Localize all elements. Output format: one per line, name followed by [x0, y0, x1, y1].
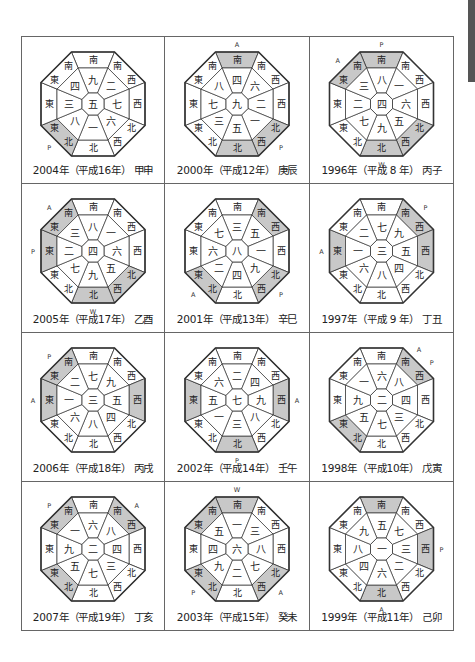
direction-label: 西: [421, 99, 430, 109]
direction-label: 北: [64, 582, 73, 592]
chart-cell: 南九南西二西七北西六北一東北八東三南東四五P2004年（平成16年） 甲申: [22, 37, 165, 184]
star-number: 二: [214, 263, 224, 274]
direction-label: 東: [194, 269, 203, 280]
marker-a: A: [417, 346, 422, 354]
direction-label: 東: [50, 418, 59, 429]
chart-caption: 2004年（平成16年） 甲申: [22, 162, 164, 177]
direction-label: 南: [353, 505, 362, 516]
direction-label: 北: [415, 270, 424, 280]
star-number: 八: [214, 81, 224, 92]
direction-label: 西: [133, 395, 142, 405]
direction-label: 西: [271, 75, 280, 85]
star-number: 四: [250, 377, 260, 388]
direction-label: 北: [64, 137, 73, 147]
direction-label: 西: [277, 99, 286, 109]
star-number: 二: [70, 377, 80, 388]
direction-label: 東: [339, 221, 348, 232]
direction-label: 南: [353, 356, 362, 367]
direction-label: 東: [339, 567, 348, 578]
direction-label: 東: [333, 98, 342, 109]
direction-label: 南: [257, 356, 266, 367]
center-star-number: 四: [377, 99, 387, 110]
marker-p: P: [279, 291, 283, 299]
direction-label: 西: [257, 582, 266, 592]
direction-label: 東: [194, 519, 203, 530]
direction-label: 東: [339, 519, 348, 530]
marker-a: A: [47, 204, 52, 212]
direction-label: 西: [271, 520, 280, 530]
direction-label: 北: [415, 419, 424, 429]
direction-label: 北: [353, 582, 362, 592]
direction-label: 西: [277, 246, 286, 256]
direction-label: 北: [353, 137, 362, 147]
star-number: 九: [377, 123, 387, 134]
direction-label: 南: [64, 207, 73, 218]
star-number: 七: [88, 371, 98, 382]
direction-label: 北: [233, 290, 242, 300]
direction-label: 東: [194, 418, 203, 429]
star-number: 一: [70, 526, 80, 537]
star-number: 九: [353, 395, 363, 406]
direction-label: 南: [377, 54, 386, 65]
center-star-number: 八: [232, 246, 242, 257]
direction-label: 西: [133, 246, 142, 256]
center-star-number: 四: [88, 246, 98, 257]
center-star-number: 三: [88, 395, 98, 406]
star-number: 四: [394, 263, 404, 274]
direction-label: 南: [233, 350, 242, 361]
direction-label: 東: [189, 98, 198, 109]
direction-label: 東: [194, 122, 203, 133]
star-number: 七: [377, 419, 387, 430]
star-number: 九: [106, 377, 116, 388]
star-number: 八: [377, 270, 387, 281]
star-number: 一: [214, 412, 224, 423]
direction-label: 東: [333, 394, 342, 405]
chart-cell: 南三南西五西一北西九北四東北二東六南東七八AP2001年（平成13年） 辛巳: [165, 184, 310, 333]
chart-cell: 南六南西八西四北西三北七東北五東九南東一二PA2007年（平成19年） 丁亥: [22, 482, 165, 630]
chart-caption: 1998年（平成10年） 戊寅: [310, 460, 453, 475]
star-number: 三: [394, 412, 404, 423]
direction-label: 南: [377, 499, 386, 510]
marker-p: P: [440, 546, 444, 554]
direction-label: 南: [113, 356, 122, 367]
page-edge-tab: [468, 0, 475, 82]
direction-label: 西: [271, 222, 280, 232]
direction-label: 西: [127, 222, 136, 232]
star-number: 六: [359, 263, 369, 274]
star-number: 五: [112, 395, 122, 406]
marker-p: P: [47, 144, 51, 152]
chart-grid: 南九南西二西七北西六北一東北八東三南東四五P2004年（平成16年） 甲申 南四…: [21, 36, 454, 631]
direction-label: 北: [415, 568, 424, 578]
direction-label: 西: [277, 395, 286, 405]
direction-label: 北: [127, 568, 136, 578]
star-number: 六: [112, 246, 122, 257]
marker-p: P: [380, 41, 384, 49]
star-number: 六: [377, 371, 387, 382]
kyusei-octagon-chart: 南七南西九西五北西四北八東北六東一南東二三PA: [22, 337, 164, 467]
kyusei-octagon-chart: 南八南西一西六北西五北九東北七東二南東三四PAW: [310, 41, 453, 171]
direction-label: 東: [50, 221, 59, 232]
star-number: 五: [70, 561, 80, 572]
star-number: 三: [232, 419, 242, 430]
direction-label: 西: [421, 246, 430, 256]
kyusei-octagon-chart: 南九南西二西七北西六北一東北八東三南東四五P: [22, 41, 164, 171]
marker-p: P: [279, 144, 283, 152]
direction-label: 西: [415, 75, 424, 85]
chart-cell: 南六南西八西四北西三北七東北五東九南東一二AP1998年（平成10年） 戊寅: [310, 333, 453, 482]
direction-label: 南: [401, 356, 410, 367]
star-number: 八: [70, 116, 80, 127]
star-number: 八: [88, 419, 98, 430]
direction-label: 北: [377, 439, 386, 449]
star-number: 一: [394, 81, 404, 92]
marker-a: A: [295, 397, 300, 405]
star-number: 九: [359, 526, 369, 537]
direction-label: 東: [50, 567, 59, 578]
star-number: 九: [88, 75, 98, 86]
marker-a: A: [319, 248, 324, 256]
direction-label: 東: [189, 394, 198, 405]
star-number: 四: [401, 395, 411, 406]
star-number: 五: [394, 116, 404, 127]
direction-label: 北: [233, 143, 242, 153]
direction-label: 北: [208, 582, 217, 592]
star-number: 三: [359, 81, 369, 92]
